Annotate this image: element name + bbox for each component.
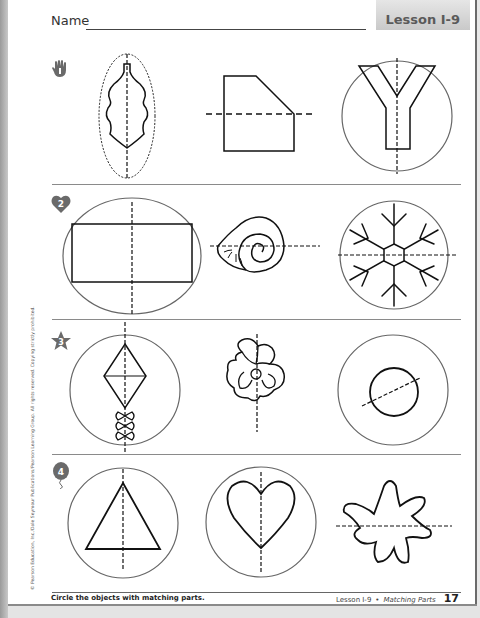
splat-figure[interactable] xyxy=(334,476,454,568)
lesson-tab-label: Lesson I-9 xyxy=(385,12,460,27)
page-number: 17 xyxy=(444,592,459,605)
snail-shell-figure[interactable] xyxy=(210,214,322,294)
star-icon: 3 xyxy=(50,330,72,352)
circle-in-circle-figure[interactable] xyxy=(338,330,450,450)
page-bottom-background xyxy=(8,606,480,618)
footer-instruction: Circle the objects with matching parts. xyxy=(51,594,205,602)
lesson-tab: Lesson I-9 xyxy=(376,0,470,30)
footer-bullet: • xyxy=(375,596,379,604)
footer-lesson-info: Lesson I-9 • Matching Parts 17 xyxy=(336,592,459,605)
heart-figure[interactable] xyxy=(204,462,320,582)
footer-lesson: Lesson I-9 xyxy=(336,596,371,604)
flower-figure[interactable] xyxy=(222,334,292,434)
copyright-notice: © Pearson Education, Inc./Dale Seymour P… xyxy=(30,280,35,590)
page-left-edge xyxy=(0,0,8,618)
row-number: 3 xyxy=(58,338,64,347)
cut-corner-shape-figure[interactable] xyxy=(206,76,316,156)
row-divider xyxy=(52,319,461,320)
kite-figure[interactable] xyxy=(70,322,182,454)
hand-icon xyxy=(50,58,72,80)
page-right-border xyxy=(475,0,477,605)
name-label: Name xyxy=(51,13,89,28)
letter-y-figure[interactable] xyxy=(342,56,454,176)
footer-topic: Matching Parts xyxy=(383,596,435,604)
row-divider xyxy=(52,454,461,455)
row-divider xyxy=(52,184,461,185)
triangle-figure[interactable] xyxy=(68,465,180,585)
rectangle-figure[interactable] xyxy=(62,196,202,316)
name-field-line[interactable] xyxy=(86,29,366,30)
row-number: 4 xyxy=(58,467,64,477)
snowflake-figure[interactable] xyxy=(338,196,458,316)
leaf-figure[interactable] xyxy=(96,52,158,180)
